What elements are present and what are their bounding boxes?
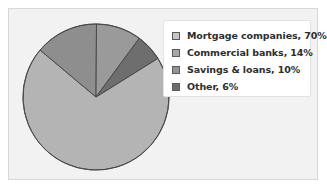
legend-swatch-icon-mortgage-companies <box>172 32 180 40</box>
legend-item-savings-and-loans[interactable]: Savings & loans, 10% <box>172 61 310 78</box>
legend-item-commercial-banks[interactable]: Commercial banks, 14% <box>172 44 310 61</box>
pie-chart-figure: Mortgage companies, 70% Commercial banks… <box>0 0 327 189</box>
legend-label-other: Other, 6% <box>187 82 238 92</box>
chart-legend: Mortgage companies, 70% Commercial banks… <box>163 20 311 97</box>
legend-label-mortgage-companies: Mortgage companies, 70% <box>187 31 327 41</box>
legend-label-commercial-banks: Commercial banks, 14% <box>187 48 313 58</box>
legend-swatch-icon-other <box>172 83 180 91</box>
legend-swatch-icon-savings-and-loans <box>172 66 180 74</box>
legend-label-savings-and-loans: Savings & loans, 10% <box>187 65 300 75</box>
legend-item-mortgage-companies[interactable]: Mortgage companies, 70% <box>172 27 310 44</box>
legend-swatch-icon-commercial-banks <box>172 49 180 57</box>
legend-item-other[interactable]: Other, 6% <box>172 78 310 95</box>
